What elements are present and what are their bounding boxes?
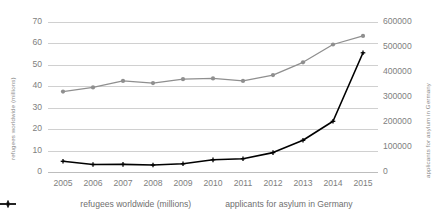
data-point-marker bbox=[361, 34, 365, 38]
chart-legend: refugees worldwide (millions) applicants… bbox=[0, 199, 433, 209]
data-point-marker bbox=[61, 90, 65, 94]
legend-label-asylum: applicants for asylum in Germany bbox=[225, 199, 353, 209]
data-point-marker bbox=[121, 79, 125, 83]
series-line bbox=[63, 36, 363, 92]
data-point-marker bbox=[241, 156, 246, 161]
data-point-marker bbox=[91, 162, 96, 167]
data-point-marker bbox=[181, 161, 186, 166]
left-axis-title: refugees worldwide (millions) bbox=[9, 77, 16, 160]
data-point-marker bbox=[211, 158, 216, 163]
left-tick-label: 60 bbox=[16, 37, 42, 47]
left-tick-label: 0 bbox=[16, 166, 42, 176]
data-point-marker bbox=[271, 73, 275, 77]
legend-marker-plus-icon bbox=[0, 199, 16, 209]
data-point-marker bbox=[151, 81, 155, 85]
data-point-marker bbox=[331, 42, 335, 46]
series-line bbox=[63, 53, 363, 165]
data-point-marker bbox=[91, 85, 95, 89]
left-tick-label: 50 bbox=[16, 59, 42, 69]
right-tick-label: 300000 bbox=[383, 91, 427, 101]
data-point-marker bbox=[271, 150, 276, 155]
left-tick-label: 40 bbox=[16, 80, 42, 90]
data-point-marker bbox=[361, 51, 366, 56]
x-tick-label: 2015 bbox=[343, 178, 383, 188]
legend-label-refugees: refugees worldwide (millions) bbox=[80, 199, 191, 209]
left-tick-label: 70 bbox=[16, 16, 42, 26]
data-point-marker bbox=[151, 163, 156, 168]
chart-container: refugees worldwide (millions) applicants… bbox=[0, 0, 433, 223]
data-point-marker bbox=[301, 60, 305, 64]
left-tick-label: 30 bbox=[16, 102, 42, 112]
data-point-marker bbox=[241, 79, 245, 83]
right-tick-label: 600000 bbox=[383, 16, 427, 26]
left-tick-label: 10 bbox=[16, 145, 42, 155]
right-tick-label: 100000 bbox=[383, 141, 427, 151]
data-point-marker bbox=[181, 77, 185, 81]
series-layer bbox=[48, 22, 378, 172]
right-tick-label: 500000 bbox=[383, 41, 427, 51]
data-point-marker bbox=[61, 159, 66, 164]
plot-area bbox=[48, 22, 378, 172]
data-point-marker bbox=[211, 76, 215, 80]
data-point-marker bbox=[121, 162, 126, 167]
right-tick-label: 200000 bbox=[383, 116, 427, 126]
right-tick-label: 400000 bbox=[383, 66, 427, 76]
legend-item-asylum[interactable]: applicants for asylum in Germany bbox=[225, 199, 353, 209]
x-axis-line bbox=[48, 172, 378, 173]
left-tick-label: 20 bbox=[16, 123, 42, 133]
legend-item-refugees[interactable]: refugees worldwide (millions) bbox=[80, 199, 191, 209]
right-tick-label: 0 bbox=[383, 166, 427, 176]
